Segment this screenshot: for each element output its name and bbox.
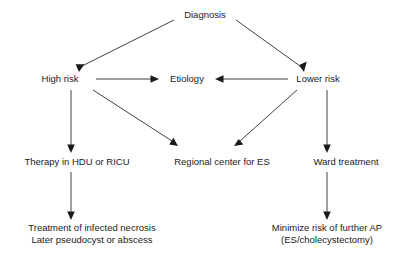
- node-therapy-hdu-ricu: Therapy in HDU or RICU: [24, 156, 129, 167]
- edge-ward-to-minimize: [323, 172, 331, 220]
- node-high-risk: High risk: [42, 73, 79, 84]
- node-minimize-risk-further-ap-line1: Minimize risk of further AP: [272, 222, 382, 233]
- edge-diagnosis-to-lower-risk: [236, 20, 307, 72]
- edge-lower-risk-to-regional-center: [234, 90, 297, 146]
- edge-high-risk-to-therapy: [67, 90, 75, 153]
- flowchart-canvas: Diagnosis High risk Etiology Lower risk …: [0, 0, 406, 257]
- edge-lower-risk-to-ward: [323, 90, 331, 153]
- node-treatment-infected-necrosis-line1: Treatment of infected necrosis: [28, 222, 156, 233]
- edge-diagnosis-to-high-risk: [76, 20, 174, 72]
- node-etiology: Etiology: [170, 73, 204, 84]
- node-ward-treatment: Ward treatment: [313, 156, 378, 167]
- edge-therapy-to-necrosis: [67, 172, 75, 220]
- node-minimize-risk-further-ap-line2: (ES/cholecystectomy): [281, 234, 373, 245]
- edge-lower-risk-to-etiology: [215, 75, 288, 83]
- node-treatment-infected-necrosis-line2: Later pseudocyst or abscess: [32, 234, 153, 245]
- edge-high-risk-to-regional-center: [93, 90, 178, 146]
- edge-high-risk-to-etiology: [96, 75, 159, 83]
- node-regional-center-for-es: Regional center for ES: [174, 156, 270, 167]
- flowchart-diagram: Diagnosis High risk Etiology Lower risk …: [0, 0, 406, 257]
- node-lower-risk: Lower risk: [296, 73, 340, 84]
- node-diagnosis: Diagnosis: [184, 9, 226, 20]
